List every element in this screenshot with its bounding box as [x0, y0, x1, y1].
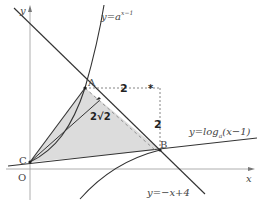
exp-curve-label: y=ax−1 — [100, 9, 133, 22]
math-figure: y x O A B C y=ax−1 y=loga(x−1) y=−x+4 2 … — [0, 0, 257, 201]
hypotenuse-length: 2√2 — [90, 111, 111, 122]
point-c — [28, 160, 31, 163]
point-a — [83, 86, 86, 89]
horizontal-leg-length: 2 — [120, 82, 128, 95]
origin-label: O — [18, 172, 26, 183]
log-label-pre: y=log — [188, 126, 219, 137]
line-y-neg-x-plus-4 — [14, 8, 205, 194]
point-c-label: C — [19, 155, 27, 166]
log-curve-label: y=loga(x−1) — [188, 126, 251, 139]
point-b-label: B — [160, 139, 167, 150]
log-label-post: (x−1) — [222, 126, 250, 137]
x-axis-arrow-icon — [248, 167, 255, 171]
y-axis-label: y — [19, 5, 26, 16]
corner-mark: * — [148, 83, 154, 94]
x-axis-label: x — [246, 173, 252, 184]
point-a-label: A — [87, 77, 96, 88]
vertical-leg-length: 2 — [154, 118, 162, 131]
y-axis-arrow-icon — [28, 5, 32, 12]
line-label: y=−x+4 — [146, 187, 190, 198]
exp-label-exponent: x−1 — [121, 9, 133, 16]
exp-label-base: y=a — [100, 11, 121, 22]
